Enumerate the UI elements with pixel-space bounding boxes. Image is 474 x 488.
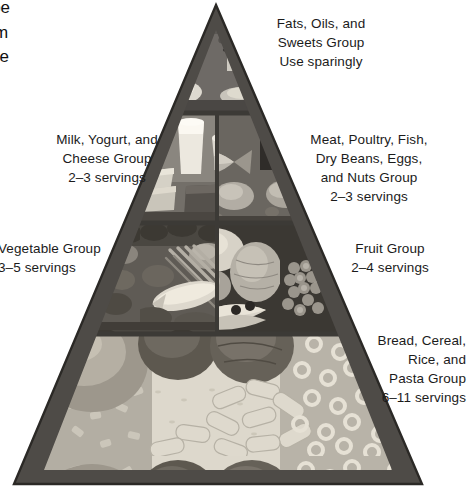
label-fats-oils-sweets: Fats, Oils, and Sweets Group Use sparing… [246,14,396,71]
label-bread-cereal-rice-pasta: Bread, Cereal, Rice, and Pasta Group 6–1… [300,331,466,407]
label-milk-yogurt-cheese: Milk, Yogurt, and Cheese Group 2–3 servi… [32,130,182,187]
paragraph-fragment-text: would be ods from amid like tatoes, [0,0,122,94]
label-vegetable-group: Vegetable Group 3–5 servings [0,239,148,277]
label-meat-poultry-fish: Meat, Poultry, Fish, Dry Beans, Eggs, an… [288,130,450,206]
label-fruit-group: Fruit Group 2–4 servings [330,239,450,277]
food-pyramid-figure: would be ods from amid like tatoes, e [0,0,474,488]
